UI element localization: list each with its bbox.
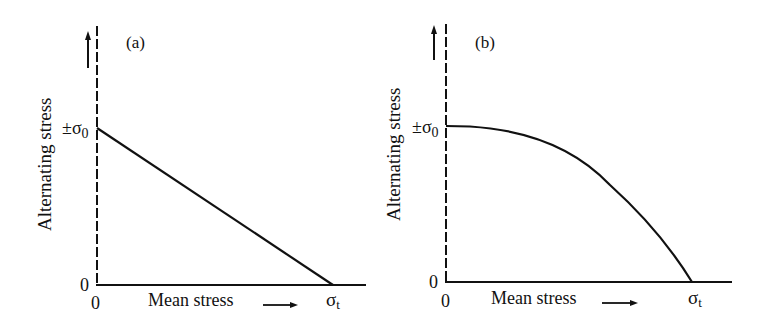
x-tick-sigmat-b: σt <box>688 287 702 310</box>
x-axis-label-b: Mean stress <box>491 288 576 308</box>
right-arrow-icon <box>263 302 298 308</box>
panel-a: (a) Alternating stress ±σ0 0 0 Mean stre… <box>34 26 366 313</box>
right-arrow-icon <box>602 300 638 306</box>
panel-b: (b) Alternating stress ±σ0 0 0 Mean stre… <box>383 24 732 311</box>
panel-label-b: (b) <box>475 33 495 52</box>
y-tick-zero-a: 0 <box>80 275 89 295</box>
up-arrow-icon <box>85 31 91 68</box>
gerber-curve <box>446 126 692 282</box>
panel-label-a: (a) <box>126 33 145 52</box>
x-tick-sigmat-a: σt <box>326 289 340 312</box>
figure: (a) Alternating stress ±σ0 0 0 Mean stre… <box>0 0 766 324</box>
x-tick-zero-b: 0 <box>441 291 450 311</box>
x-tick-zero-a: 0 <box>91 293 100 313</box>
y-tick-zero-b: 0 <box>429 272 438 292</box>
y-axis-label-b: Alternating stress <box>383 87 404 221</box>
y-tick-sigma0-b: ±σ0 <box>412 117 439 140</box>
up-arrow-icon <box>431 25 437 60</box>
goodman-line <box>97 128 333 285</box>
x-axis-label-a: Mean stress <box>148 290 233 310</box>
y-axis-label-a: Alternating stress <box>34 97 55 231</box>
y-tick-sigma0-a: ±σ0 <box>62 118 89 141</box>
